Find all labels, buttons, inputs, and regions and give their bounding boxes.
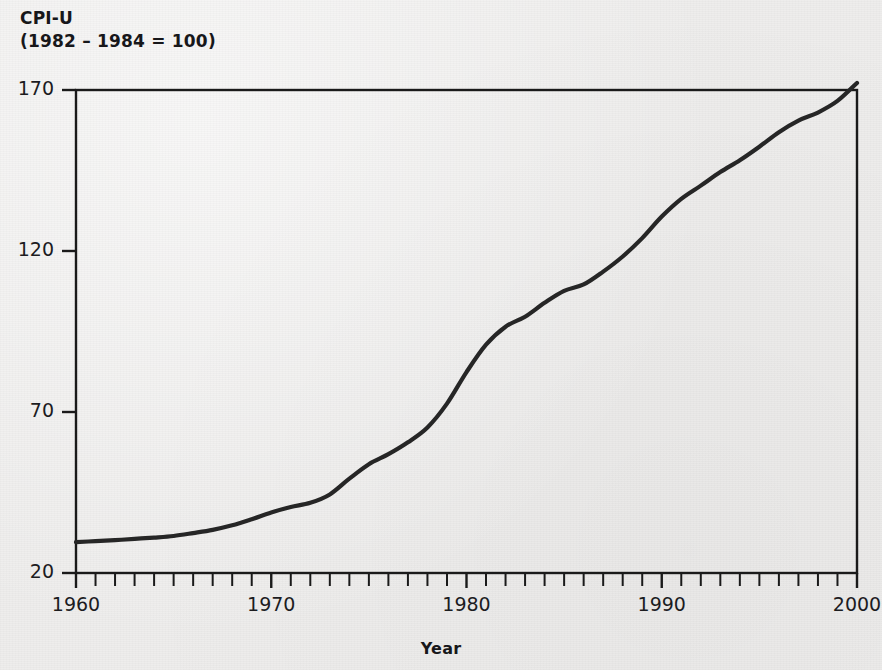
tick-marks-group (62, 90, 857, 588)
x-axis-title: Year (0, 639, 882, 658)
cpi-u-series-line (76, 83, 857, 542)
y-axis-tick-label: 70 (0, 399, 54, 421)
x-axis-tick-label: 1980 (422, 593, 512, 615)
plot-area-svg (0, 0, 882, 670)
x-axis-tick-label: 1960 (31, 593, 121, 615)
x-axis-tick-label: 1990 (617, 593, 707, 615)
data-series-group (76, 83, 857, 542)
y-axis-tick-label: 20 (0, 560, 54, 582)
y-axis-tick-label: 120 (0, 238, 54, 260)
x-axis-tick-label: 1970 (226, 593, 316, 615)
x-axis-tick-label: 2000 (812, 593, 882, 615)
y-axis-tick-label: 170 (0, 77, 54, 99)
chart-title-line-2: (1982 – 1984 = 100) (20, 31, 216, 51)
chart-title-line-1: CPI-U (20, 8, 73, 28)
cpi-line-chart: CPI-U (1982 – 1984 = 100) Year 207012017… (0, 0, 882, 670)
